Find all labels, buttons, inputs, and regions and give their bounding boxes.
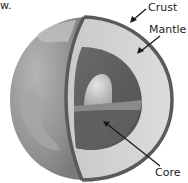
label-mantle: Mantle bbox=[149, 24, 186, 36]
earth-layers-diagram: w. bbox=[0, 0, 188, 183]
label-core: Core bbox=[155, 167, 180, 179]
label-crust: Crust bbox=[148, 2, 177, 14]
arrow-crust bbox=[130, 9, 146, 23]
